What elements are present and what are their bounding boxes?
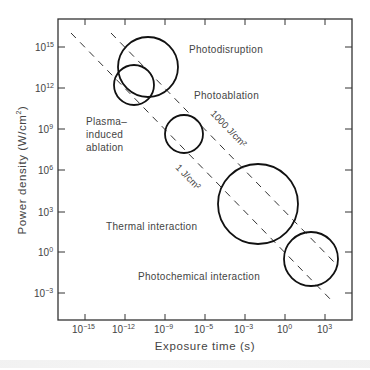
y-tick-label: 100	[38, 246, 53, 258]
x-tick-label: 10−5	[194, 323, 213, 335]
region-thermal-interaction	[218, 164, 298, 244]
x-tick-label: 10−3	[234, 323, 253, 335]
laser-tissue-interaction-chart: 10−15 10−12 10−9 10−5 10−3 100 103 1015 …	[0, 0, 370, 370]
label-plasma-induced-ablation: Plasma– induced ablation	[86, 116, 130, 153]
label-photoablation: Photoablation	[194, 90, 259, 101]
label-thermal-interaction: Thermal interaction	[106, 221, 197, 232]
x-tick-label: 10−12	[112, 323, 135, 335]
cropped-caption-strip	[0, 360, 370, 368]
x-tick-label: 100	[277, 323, 292, 335]
region-plasma-induced-ablation	[114, 65, 154, 105]
x-tick-label: 10−15	[72, 323, 95, 335]
region-photoablation	[165, 115, 203, 153]
y-tick-label: 109	[38, 123, 53, 135]
x-tick-label: 103	[317, 323, 332, 335]
y-tick-label: 106	[38, 164, 53, 176]
y-tick-label: 1015	[35, 41, 54, 53]
label-photochemical-interaction: Photochemical interaction	[138, 271, 260, 282]
y-axis-title: Power density (W/cm2)	[15, 106, 28, 235]
x-tick-labels: 10−15 10−12 10−9 10−5 10−3 100 103	[72, 323, 332, 335]
label-fluence-1000: 1000 J/cm²	[209, 108, 250, 149]
label-photodisruption: Photodisruption	[189, 44, 263, 55]
x-axis-title: Exposure time (s)	[155, 340, 255, 352]
y-tick-label: 10−3	[34, 287, 53, 299]
label-fluence-1: 1 J/cm²	[174, 162, 204, 192]
fluence-line-1-J	[71, 33, 334, 303]
y-axis-ticks	[58, 47, 352, 293]
y-tick-label: 1012	[35, 82, 54, 94]
y-tick-labels: 1015 1012 109 106 103 100 10−3	[34, 41, 54, 299]
y-tick-label: 103	[38, 206, 53, 218]
region-photochemical-interaction	[284, 232, 338, 286]
x-tick-label: 10−9	[154, 323, 173, 335]
